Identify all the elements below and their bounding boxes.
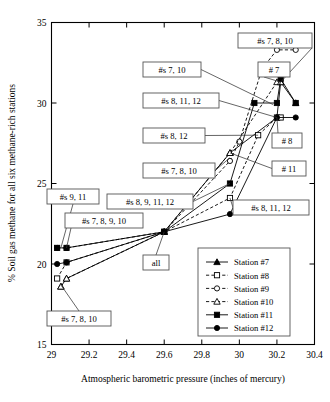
legend-marker bbox=[214, 312, 219, 317]
annotation-text: #s 8, 11, 12 bbox=[251, 203, 291, 213]
annotation-label: #s 7, 8, 10 bbox=[238, 33, 312, 48]
annotation-text: #s 8, 12 bbox=[161, 131, 188, 141]
data-point bbox=[227, 181, 232, 186]
annotation-label: #s 8, 9, 11, 12 bbox=[107, 194, 193, 209]
annotation-text: #s 8, 11, 12 bbox=[161, 96, 201, 106]
methane-pressure-chart: 2929.229.429.629.83030.230.4 1520253035 … bbox=[0, 0, 330, 402]
x-tick-label: 29.6 bbox=[156, 350, 173, 360]
data-point bbox=[227, 150, 233, 156]
annotation-label: #s 7, 8, 10 bbox=[47, 311, 111, 326]
legend-label: Station #7 bbox=[234, 257, 270, 267]
x-tick-label: 29.4 bbox=[118, 350, 135, 360]
x-tick-label: 29.8 bbox=[193, 350, 210, 360]
data-point bbox=[63, 275, 69, 281]
legend-marker bbox=[214, 273, 219, 278]
annotation-label: #s 7, 10 bbox=[143, 62, 201, 77]
data-point bbox=[293, 115, 298, 120]
legend-label: Station #9 bbox=[234, 284, 269, 294]
annotation-label: #s 8, 11, 12 bbox=[143, 93, 219, 108]
annotation-text: #s 8, 9, 11, 12 bbox=[126, 197, 174, 207]
annotation-text: #s 7, 10 bbox=[159, 65, 186, 75]
x-tick-label: 30 bbox=[235, 350, 245, 360]
annotation-text: #s 7, 8, 10 bbox=[161, 166, 197, 176]
data-point bbox=[162, 229, 167, 234]
legend-label: Station #10 bbox=[234, 297, 273, 307]
x-axis-title: Atmospheric barometric pressure (inches … bbox=[81, 374, 285, 385]
annotation-text: #s 7, 8, 9, 10 bbox=[82, 216, 126, 226]
annotation-text: #s 7, 8, 10 bbox=[257, 36, 293, 46]
annotation-text: # 11 bbox=[282, 164, 297, 174]
legend-marker bbox=[214, 286, 219, 291]
annotation-label: #s 7, 8, 10 bbox=[143, 163, 215, 178]
annotation-text: #s 9, 11 bbox=[60, 192, 87, 202]
legend-marker bbox=[214, 325, 219, 330]
data-point bbox=[274, 100, 279, 105]
data-point bbox=[55, 261, 60, 266]
data-point bbox=[55, 276, 60, 281]
data-point bbox=[227, 211, 232, 216]
annotation-label: #s 8, 12 bbox=[143, 128, 205, 143]
y-tick-label: 15 bbox=[37, 340, 47, 350]
annotation-label: # 7 bbox=[258, 62, 290, 77]
y-axis-title: % Soil gas methane for all six methane-r… bbox=[7, 84, 17, 282]
annotation-text: # 7 bbox=[269, 65, 280, 75]
annotation-leader-line bbox=[61, 285, 79, 311]
annotation-label: # 11 bbox=[272, 161, 306, 176]
legend-label: Station #8 bbox=[234, 271, 269, 281]
x-tick-label: 30.2 bbox=[269, 350, 286, 360]
annotation-text: all bbox=[152, 258, 161, 268]
y-tick-label: 30 bbox=[37, 99, 47, 109]
annotation-text: #s 7, 8, 10 bbox=[61, 314, 97, 324]
annotation-label: #s 7, 8, 9, 10 bbox=[65, 213, 143, 228]
annotation-label: # 8 bbox=[272, 133, 302, 148]
annotation-label: #s 8, 11, 12 bbox=[233, 200, 309, 215]
chart-container: 2929.229.429.629.83030.230.4 1520253035 … bbox=[0, 0, 330, 402]
legend-label: Station #11 bbox=[234, 310, 273, 320]
data-point bbox=[55, 245, 60, 250]
y-tick-label: 20 bbox=[37, 260, 47, 270]
y-tick-label: 25 bbox=[37, 179, 47, 189]
data-point bbox=[64, 260, 69, 265]
y-tick-label: 35 bbox=[37, 18, 47, 28]
legend: Station #7Station #8Station #9Station #1… bbox=[198, 248, 290, 336]
annotation-text: # 8 bbox=[282, 136, 293, 146]
data-point bbox=[227, 195, 232, 200]
annotation-leader-line bbox=[215, 158, 230, 171]
annotation-label: #s 9, 11 bbox=[47, 189, 99, 204]
x-tick-label: 29.2 bbox=[81, 350, 98, 360]
data-point bbox=[293, 100, 298, 105]
legend-label: Station #12 bbox=[234, 323, 273, 333]
annotation-leader-line bbox=[193, 184, 230, 202]
x-tick-label: 29 bbox=[47, 350, 57, 360]
data-point bbox=[252, 100, 257, 105]
x-tick-label: 30.4 bbox=[306, 350, 323, 360]
annotation-label: all bbox=[143, 255, 169, 270]
annotation-leader-line bbox=[230, 153, 272, 169]
